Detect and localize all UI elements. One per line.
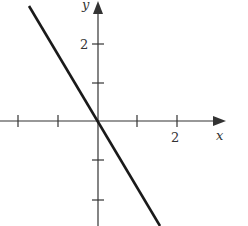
x-tick-label: 2 xyxy=(171,130,179,145)
x-axis xyxy=(0,115,222,127)
x-axis-label: x xyxy=(216,128,224,143)
y-tick-label: 2 xyxy=(80,37,88,52)
x-axis-arrow-icon xyxy=(213,116,226,126)
chart-canvas: 2 2 x y xyxy=(0,0,248,226)
data-line xyxy=(29,6,160,226)
y-axis-label: y xyxy=(81,0,90,12)
y-axis-arrow-icon xyxy=(93,1,103,14)
